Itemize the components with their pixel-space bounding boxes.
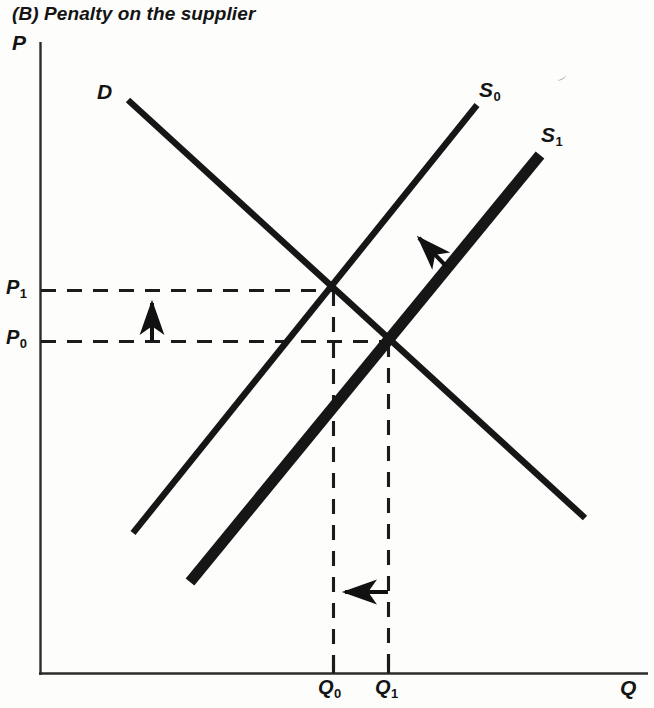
price-tick-p0: P0 — [6, 326, 27, 351]
quantity-tick-q1: Q1 — [375, 676, 398, 701]
price-tick-p0-subscript: 0 — [20, 336, 27, 351]
economics-supply-demand-figure: (B) Penalty on the supplier — [0, 0, 654, 708]
supply-curve-s0 — [133, 105, 477, 533]
price-tick-p1: P1 — [6, 276, 27, 301]
price-tick-p1-subscript: 1 — [20, 286, 27, 301]
x-axis-label: Q — [620, 676, 636, 700]
demand-curve-label: D — [97, 80, 112, 104]
annotation-arrows — [152, 238, 446, 592]
quantity-tick-q1-subscript: 1 — [391, 686, 398, 701]
guide-lines — [41, 291, 390, 674]
price-tick-p1-base: P — [6, 276, 19, 298]
quantity-tick-q0: Q0 — [318, 676, 341, 701]
supply-s0-curve-label: S0 — [479, 78, 501, 104]
plot-canvas — [0, 0, 654, 708]
x-axis-ticks — [334, 655, 389, 673]
supply-s0-label-subscript: 0 — [494, 89, 501, 104]
price-tick-p0-base: P — [6, 326, 19, 348]
supply-s0-label-base: S — [479, 78, 493, 101]
supply-shift-arrow — [419, 238, 446, 266]
supply-s1-label-base: S — [541, 123, 555, 146]
quantity-tick-q0-base: Q — [318, 676, 334, 698]
quantity-tick-q0-subscript: 0 — [334, 686, 341, 701]
supply-s1-label-subscript: 1 — [556, 134, 563, 149]
quantity-tick-q1-base: Q — [375, 676, 391, 698]
supply-curve-s1 — [190, 155, 540, 582]
supply-s1-curve-label: S1 — [541, 123, 563, 149]
y-axis-label: P — [12, 31, 26, 55]
